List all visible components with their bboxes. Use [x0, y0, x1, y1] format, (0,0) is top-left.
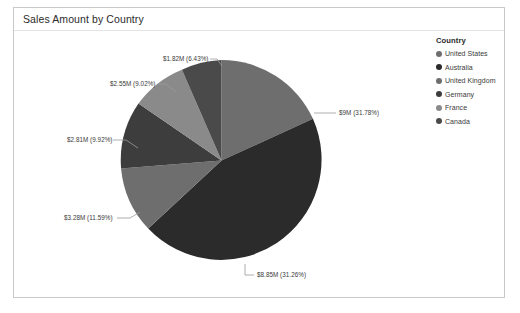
circle-marker-icon [436, 105, 442, 111]
data-label-canada: $1.82M (6.43%) [163, 55, 209, 62]
legend-item-label: United States [445, 50, 488, 57]
legend: Country United States Australia United K… [436, 36, 504, 131]
page-title: Sales Amount by Country [23, 13, 144, 25]
legend-item-label: United Kingdom [445, 77, 496, 84]
circle-marker-icon [436, 78, 442, 84]
legend-item-label: Australia [445, 64, 473, 71]
data-label-australia: $8.85M (31.26%) [257, 271, 306, 278]
circle-marker-icon [436, 118, 442, 124]
pie-svg [119, 58, 324, 263]
legend-item-france[interactable]: France [436, 104, 504, 111]
pie-container[interactable] [119, 58, 324, 263]
plot-area: $1.82M (6.43%) $2.55M (9.02%) $2.81M (9.… [14, 32, 428, 298]
data-label-united-kingdom: $3.28M (11.59%) [64, 214, 113, 221]
circle-marker-icon [436, 51, 442, 57]
pie-chart-visual[interactable]: Sales Amount by Country [14, 8, 504, 297]
legend-item-united-states[interactable]: United States [436, 50, 504, 57]
circle-marker-icon [436, 91, 442, 97]
data-label-germany: $2.81M (9.92%) [67, 136, 113, 143]
data-label-france: $2.55M (9.02%) [110, 80, 156, 87]
data-label-united-states: $9M (31.78%) [339, 109, 379, 116]
legend-item-label: Germany [445, 91, 474, 98]
report-canvas-frame: Sales Amount by Country [13, 7, 505, 298]
circle-marker-icon [436, 64, 442, 70]
legend-item-label: France [445, 104, 467, 111]
legend-title: Country [436, 36, 504, 45]
legend-item-canada[interactable]: Canada [436, 118, 504, 125]
legend-item-label: Canada [445, 118, 470, 125]
legend-item-australia[interactable]: Australia [436, 64, 504, 71]
title-divider [14, 30, 504, 31]
legend-item-germany[interactable]: Germany [436, 91, 504, 98]
legend-item-united-kingdom[interactable]: United Kingdom [436, 77, 504, 84]
